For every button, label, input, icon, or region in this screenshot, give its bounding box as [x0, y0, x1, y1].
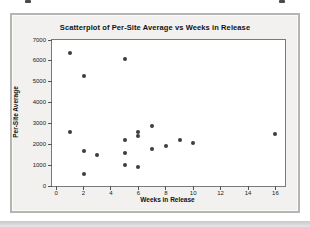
y-tick-label: 5000: [24, 78, 46, 85]
data-point: [82, 172, 86, 176]
data-point: [123, 138, 127, 142]
data-point: [191, 141, 195, 145]
y-tick-label: 1000: [24, 162, 46, 169]
page-content-below: [0, 221, 310, 227]
data-point: [136, 134, 140, 138]
data-point: [164, 144, 168, 148]
y-tick-mark: [48, 40, 52, 41]
y-tick-label: 6000: [24, 57, 46, 64]
data-point: [273, 132, 277, 136]
cropped-text-fragment-left: [25, 0, 31, 3]
y-tick-label: 3000: [24, 120, 46, 127]
y-tick-label: 4000: [24, 99, 46, 106]
y-tick-label: 7000: [24, 37, 46, 44]
data-point: [68, 130, 72, 134]
data-point: [178, 138, 182, 142]
plot-area: 0100020003000400050006000700002468101214…: [51, 39, 286, 187]
y-tick-mark: [48, 102, 52, 103]
data-point: [150, 147, 154, 151]
x-axis-label: Weeks in Release: [51, 196, 284, 203]
y-tick-label: 2000: [24, 141, 46, 148]
chart-panel: Scatterplot of Per-Site Average vs Weeks…: [10, 13, 300, 213]
data-point: [150, 124, 154, 128]
y-axis-label: Per-Site Average: [12, 39, 22, 185]
data-point: [136, 165, 140, 169]
data-point: [123, 57, 127, 61]
y-tick-mark: [48, 144, 52, 145]
screenshot-root: Scatterplot of Per-Site Average vs Weeks…: [0, 0, 310, 227]
data-point: [82, 74, 86, 78]
y-tick-mark: [48, 81, 52, 82]
y-tick-mark: [48, 60, 52, 61]
y-tick-label: 0: [24, 183, 46, 190]
y-tick-mark: [48, 165, 52, 166]
data-point: [68, 51, 72, 55]
data-point: [123, 151, 127, 155]
y-tick-mark: [48, 123, 52, 124]
chart-title: Scatterplot of Per-Site Average vs Weeks…: [12, 23, 298, 32]
data-point: [82, 149, 86, 153]
data-point: [95, 153, 99, 157]
y-tick-mark: [48, 186, 52, 187]
cropped-text-fragment-right: [279, 0, 285, 3]
data-point: [123, 163, 127, 167]
